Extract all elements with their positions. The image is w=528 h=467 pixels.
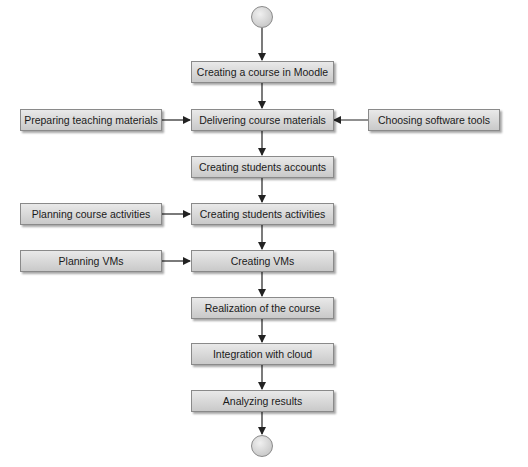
start-node (251, 6, 273, 28)
step-delivering-materials: Delivering course materials (191, 109, 334, 131)
step-creating-vms: Creating VMs (191, 250, 334, 272)
step-label: Creating a course in Moodle (197, 66, 328, 78)
step-label: Realization of the course (205, 302, 321, 314)
input-choosing-tools: Choosing software tools (368, 109, 500, 131)
input-label: Planning VMs (59, 255, 124, 267)
step-creating-activities: Creating students activities (191, 203, 334, 225)
input-planning-vms: Planning VMs (20, 250, 162, 272)
input-preparing-materials: Preparing teaching materials (20, 109, 162, 131)
step-label: Delivering course materials (199, 114, 326, 126)
step-analyzing-results: Analyzing results (191, 390, 334, 412)
step-realization: Realization of the course (191, 297, 334, 319)
step-label: Creating VMs (231, 255, 295, 267)
step-label: Analyzing results (223, 395, 302, 407)
step-creating-course: Creating a course in Moodle (191, 61, 334, 83)
input-label: Preparing teaching materials (24, 114, 158, 126)
step-creating-accounts: Creating students accounts (191, 156, 334, 178)
input-planning-activities: Planning course activities (20, 203, 162, 225)
input-label: Choosing software tools (378, 114, 490, 126)
step-label: Creating students activities (200, 208, 325, 220)
step-integration-cloud: Integration with cloud (191, 343, 334, 365)
step-label: Integration with cloud (213, 348, 312, 360)
input-label: Planning course activities (32, 208, 150, 220)
step-label: Creating students accounts (199, 161, 326, 173)
end-node (251, 435, 273, 457)
